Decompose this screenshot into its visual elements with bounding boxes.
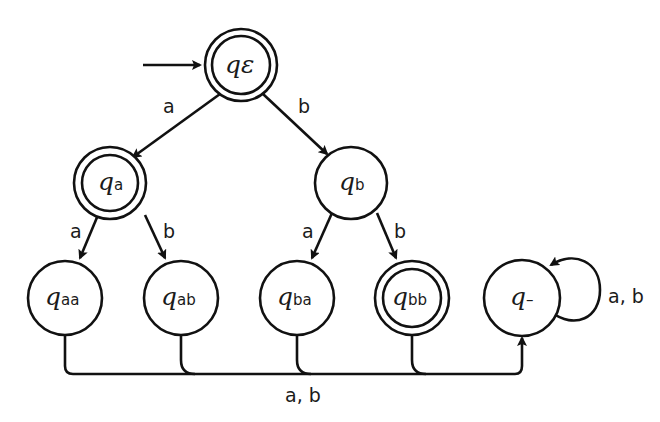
label-to-dead: a, b — [285, 384, 321, 406]
label-eps-a: a — [163, 95, 175, 117]
state-q-aa: qaa — [28, 261, 102, 335]
edge-to-dead — [65, 334, 522, 374]
dfa-diagram: a b a b a b a, b a, b qε qa qb qaa qab — [0, 0, 660, 422]
edge-eps-b — [263, 94, 327, 154]
edge-bb-dead — [412, 334, 426, 374]
state-q-b: qb — [315, 147, 387, 219]
edge-ba-dead — [297, 334, 311, 374]
edge-eps-a — [133, 94, 220, 157]
state-q-bb: qbb — [375, 261, 449, 335]
edge-a-a — [80, 215, 98, 258]
label-a-b: b — [163, 220, 175, 242]
label-b-a: a — [302, 220, 314, 242]
svg-text:qε: qε — [225, 50, 254, 79]
state-q-ab: qab — [144, 261, 218, 335]
label-dead-loop: a, b — [608, 285, 644, 307]
edge-a-b — [145, 215, 165, 258]
label-a-a: a — [70, 220, 82, 242]
label-eps-b: b — [298, 95, 310, 117]
label-b-b: b — [394, 220, 406, 242]
edge-ab-dead — [181, 334, 195, 374]
state-q-ba: qba — [260, 261, 334, 335]
state-q-dead: q– — [484, 260, 560, 336]
state-q-a: qa — [74, 147, 146, 219]
state-q-eps: qε — [205, 29, 277, 101]
edge-b-a — [312, 213, 332, 258]
